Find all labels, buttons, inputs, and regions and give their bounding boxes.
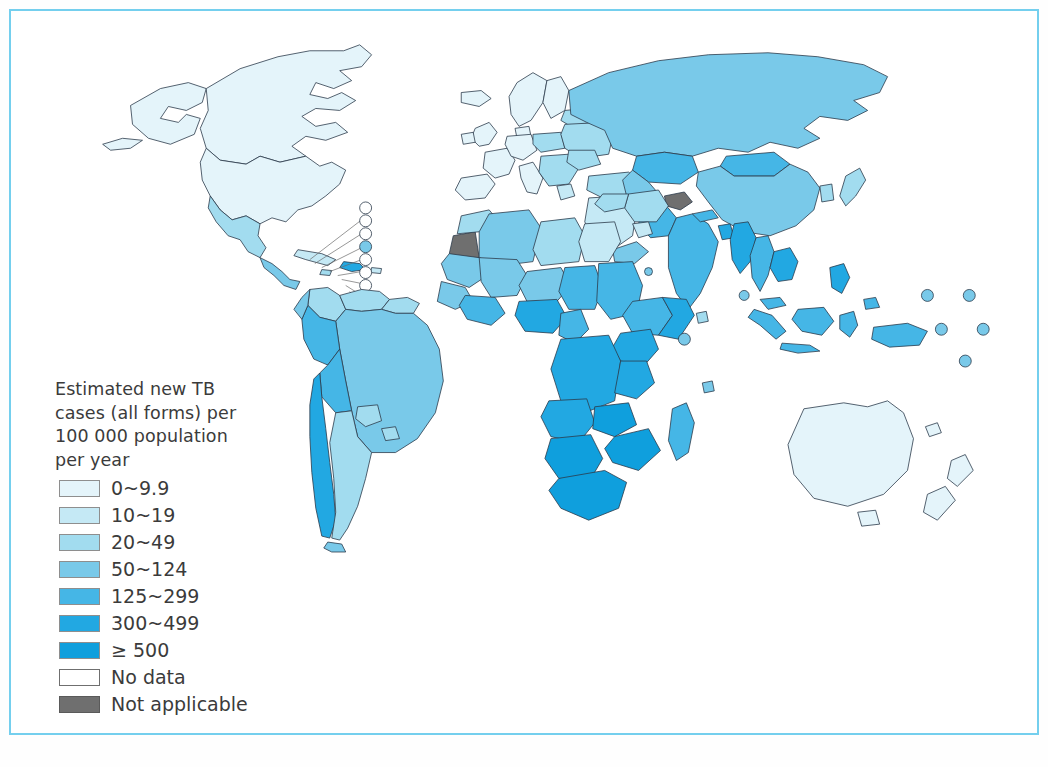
region-iceland	[461, 91, 491, 107]
region-malaysia	[760, 297, 786, 309]
legend-label-8: Not applicable	[111, 695, 248, 714]
legend-item-4[interactable]: 125~299	[55, 583, 305, 610]
region-jammu-and-kashmir	[664, 192, 692, 210]
region-canada	[200, 45, 371, 164]
region-chad	[559, 266, 603, 310]
region-alaska	[131, 83, 207, 145]
legend-swatch-4	[59, 588, 100, 605]
region-sri-lanka	[696, 311, 708, 323]
region-borneo	[792, 307, 834, 335]
callout-circle	[360, 267, 372, 279]
legend-swatch-7	[59, 669, 100, 686]
legend-swatch-2	[59, 534, 100, 551]
legend-label-4: 125~299	[111, 587, 199, 606]
pacific-island-marker	[935, 323, 947, 335]
region-poland	[533, 132, 565, 152]
pacific-island-marker	[977, 323, 989, 335]
legend-label-6: ≥ 500	[111, 641, 169, 660]
legend-item-3[interactable]: 50~124	[55, 556, 305, 583]
region-algeria	[479, 210, 541, 266]
legend-swatch-6	[59, 642, 100, 659]
pacific-island-marker	[739, 290, 749, 300]
world-map: .c{stroke:#2b3a4a;stroke-width:.8;stroke…	[11, 11, 1037, 733]
region-aleutians	[103, 138, 143, 150]
legend-item-8[interactable]: Not applicable	[55, 691, 305, 718]
pacific-island-marker	[921, 289, 933, 301]
legend-swatch-0	[59, 480, 100, 497]
callout-circle	[360, 215, 372, 227]
legend-swatch-5	[59, 615, 100, 632]
legend-label-2: 20~49	[111, 533, 175, 552]
region-australia	[788, 401, 914, 506]
region-new-guinea	[872, 323, 928, 347]
region-new-caledonia	[925, 423, 941, 437]
legend-item-1[interactable]: 10~19	[55, 502, 305, 529]
callout-circle	[360, 241, 372, 253]
region-jamaica	[320, 270, 332, 276]
legend-label-3: 50~124	[111, 560, 187, 579]
region-norway-sweden	[509, 73, 547, 127]
region-zambia-malawi	[593, 403, 637, 437]
region-new-zealand-south	[923, 486, 955, 520]
pacific-island-marker	[645, 268, 653, 276]
callout-circle	[360, 202, 372, 214]
legend-swatch-3	[59, 561, 100, 578]
region-philippines	[830, 264, 850, 294]
region-central-america	[260, 258, 300, 290]
pacific-island-marker	[963, 289, 975, 301]
region-java	[780, 343, 820, 353]
legend-label-0: 0~9.9	[111, 479, 169, 498]
region-india	[668, 214, 718, 309]
region-south-africa	[549, 470, 627, 520]
region-libya	[533, 218, 585, 266]
region-russian-federation	[569, 53, 888, 156]
callout-circle	[360, 228, 372, 240]
legend-item-7[interactable]: No data	[55, 664, 305, 691]
figure-canvas: .c{stroke:#2b3a4a;stroke-width:.8;stroke…	[0, 0, 1048, 767]
region-nigeria	[515, 299, 567, 333]
legend-item-6[interactable]: ≥ 500	[55, 637, 305, 664]
region-spain-portugal	[455, 174, 495, 200]
region-sumatra	[748, 309, 786, 339]
region-indochina	[770, 248, 798, 282]
region-puerto-rico	[371, 268, 382, 274]
region-thailand	[750, 236, 774, 292]
legend-label-7: No data	[111, 668, 186, 687]
legend-label-5: 300~499	[111, 614, 199, 633]
region-madagascar	[668, 403, 694, 461]
region-islands-indian-ocean	[702, 381, 714, 393]
region-greece	[557, 184, 575, 200]
region-ireland	[461, 132, 475, 144]
region-mali	[479, 258, 527, 298]
region-new-zealand	[947, 455, 973, 487]
region-venezuela	[340, 289, 390, 311]
region-tanzania	[615, 361, 655, 399]
region-sulawesi	[840, 311, 858, 337]
legend-swatch-1	[59, 507, 100, 524]
map-legend: Estimated new TB cases (all forms) per 1…	[55, 378, 305, 718]
legend-item-5[interactable]: 300~499	[55, 610, 305, 637]
region-pacific-islands-1	[864, 297, 880, 309]
legend-items: 0~9.9 10~19 20~49 50~124	[55, 475, 305, 718]
region-tasmania	[858, 510, 880, 526]
pacific-island-marker	[678, 333, 690, 345]
region-japan	[840, 168, 866, 206]
callout-circle	[360, 254, 372, 266]
pacific-island-marker	[959, 355, 971, 367]
region-tierra-del-fuego	[324, 542, 346, 552]
legend-swatch-8	[59, 696, 100, 713]
legend-label-1: 10~19	[111, 506, 175, 525]
legend-title: Estimated new TB cases (all forms) per 1…	[55, 378, 305, 472]
legend-item-2[interactable]: 20~49	[55, 529, 305, 556]
region-korea	[820, 184, 834, 202]
region-west-coast-states	[459, 295, 505, 325]
map-frame: .c{stroke:#2b3a4a;stroke-width:.8;stroke…	[9, 9, 1039, 735]
legend-item-0[interactable]: 0~9.9	[55, 475, 305, 502]
